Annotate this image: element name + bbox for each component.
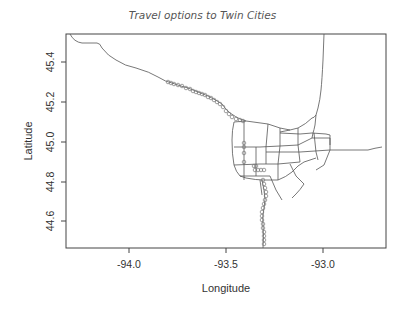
y-tick-label: 45.2	[44, 92, 56, 113]
x-axis	[129, 248, 323, 253]
x-tick-label: -94.0	[117, 258, 141, 270]
plot-frame	[66, 34, 386, 248]
y-axis	[61, 62, 66, 221]
y-tick-label: 44.8	[44, 172, 56, 193]
y-tick-label: 45.0	[44, 132, 56, 153]
map-plot: -94.0 -93.5 -93.0 Longitude 45.4 45.2 45…	[0, 0, 405, 311]
y-axis-label: Latitude	[22, 121, 34, 160]
route-points	[166, 80, 268, 246]
road-network	[70, 34, 382, 248]
y-tick-label: 44.6	[44, 211, 56, 232]
x-tick-label: -93.5	[214, 258, 238, 270]
x-axis-label: Longitude	[202, 282, 250, 294]
y-tick-label: 45.4	[44, 52, 56, 73]
x-tick-label: -93.0	[311, 258, 335, 270]
